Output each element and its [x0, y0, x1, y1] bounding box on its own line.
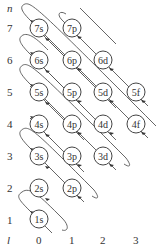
svg-text:3p: 3p	[67, 151, 77, 162]
l-value-3: 3	[133, 234, 139, 246]
n-value-3: 3	[7, 150, 13, 162]
svg-text:5s: 5s	[35, 87, 44, 98]
svg-text:5d: 5d	[98, 87, 108, 98]
orbital-7p: 7p	[63, 19, 81, 37]
orbital-1s: 1s	[30, 210, 48, 228]
orbital-5f: 5f	[127, 83, 145, 101]
svg-text:2s: 2s	[35, 183, 44, 194]
orbital-6p: 6p	[63, 51, 81, 69]
orbital-4f: 4f	[127, 115, 145, 133]
l-value-0: 0	[36, 234, 42, 246]
svg-text:6d: 6d	[98, 55, 108, 66]
svg-text:5f: 5f	[132, 87, 141, 98]
l-axis-label: l	[7, 234, 10, 246]
svg-text:7s: 7s	[35, 23, 44, 34]
svg-text:2p: 2p	[67, 183, 77, 194]
orbital-5d: 5d	[94, 83, 112, 101]
orbital-5s: 5s	[30, 83, 48, 101]
orbital-3s: 3s	[30, 147, 48, 165]
svg-text:1s: 1s	[35, 214, 44, 225]
l-value-2: 2	[100, 234, 106, 246]
n-axis-label: n	[7, 2, 13, 14]
orbital-3p: 3p	[63, 147, 81, 165]
svg-text:4s: 4s	[35, 119, 44, 130]
aufbau-diagram: n 7 6 5 4 3 2 1 l 0 1 2 3 7s 7p 6s 6p 6d…	[0, 0, 158, 249]
orbital-5p: 5p	[63, 83, 81, 101]
orbital-3d: 3d	[94, 147, 112, 165]
orbital-2p: 2p	[63, 179, 81, 197]
svg-text:7p: 7p	[67, 23, 77, 34]
orbital-7s: 7s	[30, 19, 48, 37]
svg-text:5p: 5p	[67, 87, 77, 98]
svg-text:4f: 4f	[132, 119, 141, 130]
svg-text:3d: 3d	[98, 151, 108, 162]
n-value-5: 5	[7, 86, 13, 98]
n-value-4: 4	[7, 118, 13, 130]
orbitals: 7s 7p 6s 6p 6d 5s 5p 5d 5f 4s 4p 4d 4f 3…	[30, 19, 145, 228]
orbital-4d: 4d	[94, 115, 112, 133]
orbital-4s: 4s	[30, 115, 48, 133]
n-value-7: 7	[7, 22, 13, 34]
orbital-4p: 4p	[63, 115, 81, 133]
orbital-6s: 6s	[30, 51, 48, 69]
n-value-2: 2	[7, 182, 13, 194]
svg-text:3s: 3s	[35, 151, 44, 162]
svg-text:4d: 4d	[98, 119, 108, 130]
n-value-1: 1	[7, 214, 13, 226]
orbital-2s: 2s	[30, 179, 48, 197]
svg-text:6s: 6s	[35, 55, 44, 66]
svg-text:6p: 6p	[67, 55, 77, 66]
l-value-1: 1	[69, 234, 75, 246]
svg-text:4p: 4p	[67, 119, 77, 130]
orbital-6d: 6d	[94, 51, 112, 69]
n-value-6: 6	[7, 54, 13, 66]
